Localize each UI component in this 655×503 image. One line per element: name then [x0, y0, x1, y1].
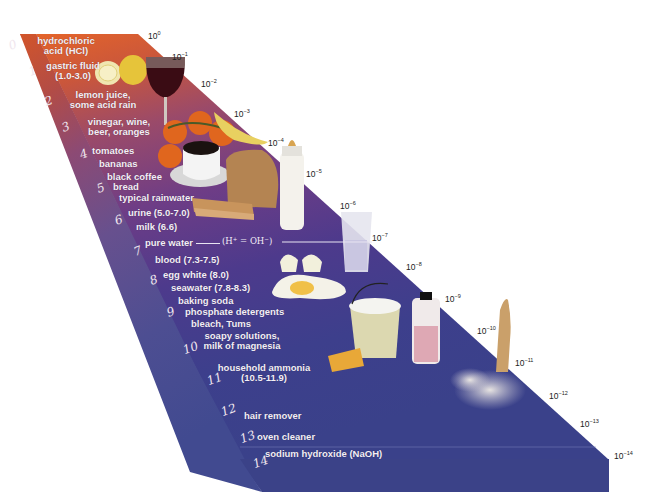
h-conc-13: 10−13 — [580, 418, 599, 429]
label-bleach-tums: bleach, Tums — [191, 319, 251, 329]
h-conc-11: 10−11 — [515, 357, 533, 368]
h-conc-3: 10−3 — [234, 108, 250, 119]
label-sodium-hydroxide: sodium hydroxide (NaOH) — [265, 449, 382, 459]
h-conc-12: 10−12 — [549, 390, 568, 401]
label-baking-soda: baking soda — [178, 296, 233, 306]
slab-front-face — [240, 459, 609, 492]
label-typical-rainwater: typical rainwater — [119, 193, 194, 203]
label-seawater: seawater (7.8-8.3) — [171, 283, 250, 293]
label-pure-water: pure water — [145, 238, 193, 248]
label-milk: milk (6.6) — [136, 222, 177, 232]
label-urine: urine (5.0-7.0) — [128, 208, 190, 218]
label-tomatoes: tomatoes — [92, 146, 134, 156]
label-hydrochloric-acid: hydrochloric acid (HCl) — [26, 36, 106, 56]
label-bananas: bananas — [99, 159, 138, 169]
h-conc-5: 10−5 — [306, 168, 322, 179]
label-household-ammonia: household ammonia (10.5-11.9) — [214, 363, 314, 383]
h-conc-14: 10−14 — [614, 450, 633, 461]
h-conc-1: 10−1 — [172, 51, 188, 62]
h-conc-9: 10−9 — [445, 293, 461, 304]
h-conc-0: 100 — [148, 30, 161, 41]
baby-bottle-illustration — [280, 140, 304, 230]
h-conc-6: 10−6 — [340, 200, 356, 211]
label-blood: blood (7.3-7.5) — [155, 255, 219, 265]
label-phosphate-detergents: phosphate detergents — [185, 307, 284, 317]
label-lemon-juice: lemon juice, some acid rain — [58, 90, 148, 110]
label-soapy-solutions: soapy solutions, milk of magnesia — [197, 331, 287, 351]
label-egg-white: egg white (8.0) — [163, 270, 229, 280]
h-conc-7: 10−7 — [372, 232, 388, 243]
pure-water-line-left — [196, 243, 220, 244]
h-conc-8: 10−8 — [406, 261, 422, 272]
h-conc-10: 10−10 — [477, 325, 496, 336]
bleach-bottle-illustration — [412, 292, 440, 364]
label-oven-cleaner: oven cleaner — [257, 432, 315, 442]
ph-scale-diagram: 0 1 2 3 4 5 6 7 8 9 10 11 12 13 14 hydro… — [0, 0, 655, 503]
label-vinegar-wine: vinegar, wine, beer, oranges — [74, 117, 164, 137]
label-black-coffee-bread: black coffee bread — [107, 172, 162, 192]
label-gastric-fluid: gastric fluid (1.0-3.0) — [38, 61, 108, 81]
h-conc-2: 10−2 — [201, 78, 217, 89]
pure-water-formula: (H+ = OH−) — [222, 236, 272, 246]
label-hair-remover: hair remover — [244, 411, 302, 421]
h-conc-4: 10−4 — [268, 137, 284, 148]
